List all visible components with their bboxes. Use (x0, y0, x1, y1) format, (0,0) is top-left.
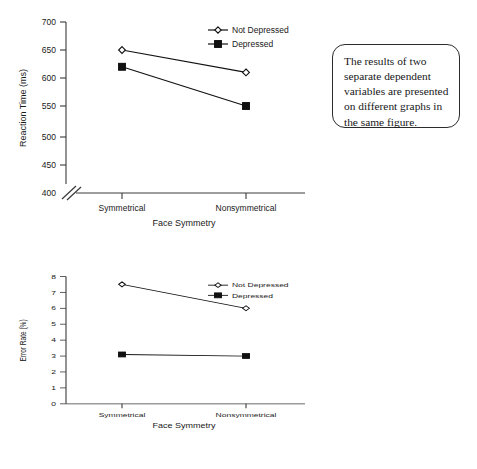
legend-item-depressed: Depressed (208, 39, 273, 49)
y-tick-label-0: 0 (51, 400, 56, 407)
data-point-marker-open-diamond (119, 47, 126, 54)
y-tick-label-2: 2 (51, 368, 56, 375)
y-tick-label-600: 600 (42, 73, 56, 83)
data-point-marker-filled-square (243, 103, 250, 110)
legend-label-depressed: Depressed (232, 39, 273, 49)
chart-reaction-time-svg: 700 650 600 550 500 450 400 Reaction Tim… (0, 0, 320, 236)
y-tick-label-5: 5 (51, 321, 56, 328)
legend-label-not-depressed: Not Depressed (232, 282, 289, 289)
y-axis-ticks (60, 276, 66, 403)
x-axis-title: Face Symmetry (153, 422, 216, 429)
y-tick-label-650: 650 (42, 45, 56, 55)
y-axis-ticks (60, 22, 66, 165)
x-axis-ticks (122, 404, 246, 408)
data-point-marker-open-diamond (119, 282, 126, 287)
x-tick-label-symmetrical: Symmetrical (99, 411, 146, 418)
x-tick-label-symmetrical: Symmetrical (99, 203, 146, 213)
legend-item-depressed: Depressed (208, 292, 273, 299)
legend-marker-open-diamond (215, 283, 221, 288)
series-depressed (119, 63, 250, 109)
figure-root: 700 650 600 550 500 450 400 Reaction Tim… (0, 0, 477, 469)
y-axis-title: Error Rate (%) (18, 319, 28, 361)
legend-marker-filled-square (215, 293, 222, 298)
chart-reaction-time: 700 650 600 550 500 450 400 Reaction Tim… (0, 0, 320, 236)
y-tick-label-4: 4 (51, 336, 56, 343)
y-tick-label-550: 550 (42, 101, 56, 111)
x-axis-title: Face Symmetry (152, 218, 216, 228)
y-tick-label-400: 400 (42, 188, 56, 198)
legend-marker-open-diamond (215, 27, 221, 33)
series-depressed (119, 352, 250, 359)
y-tick-label-1: 1 (51, 384, 56, 391)
legend: Not Depressed Depressed (208, 25, 289, 49)
legend-item-not-depressed: Not Depressed (208, 25, 289, 35)
legend-label-depressed: Depressed (232, 292, 273, 299)
chart-error-rate: 8 7 6 5 4 3 2 1 0 Error Rate (%) Symmetr… (0, 236, 320, 469)
data-point-marker-filled-square (119, 63, 126, 70)
data-point-marker-filled-square (243, 354, 250, 359)
y-tick-label-500: 500 (42, 132, 56, 142)
legend-label-not-depressed: Not Depressed (232, 25, 289, 35)
series-not-depressed (119, 282, 250, 311)
annotation-callout-text: The results of two separate dependent va… (344, 54, 450, 130)
data-point-marker-open-diamond (243, 69, 250, 76)
y-tick-label-6: 6 (51, 305, 56, 312)
x-axis-ticks (122, 193, 246, 199)
annotation-callout: The results of two separate dependent va… (332, 44, 460, 128)
x-tick-label-nonsymmetrical: Nonsymmetrical (216, 411, 277, 418)
data-point-marker-open-diamond (243, 306, 250, 311)
x-tick-label-nonsymmetrical: Nonsymmetrical (216, 203, 277, 213)
legend: Not Depressed Depressed (208, 282, 289, 300)
y-tick-label-450: 450 (42, 160, 56, 170)
y-tick-label-7: 7 (51, 289, 56, 296)
legend-item-not-depressed: Not Depressed (208, 282, 289, 289)
chart-error-rate-svg: 8 7 6 5 4 3 2 1 0 Error Rate (%) Symmetr… (0, 236, 320, 469)
y-tick-label-700: 700 (42, 17, 56, 27)
y-axis-title: Reaction Time (ms) (18, 69, 28, 147)
y-tick-label-3: 3 (51, 352, 56, 359)
y-tick-label-8: 8 (51, 273, 56, 280)
data-point-marker-filled-square (119, 352, 126, 357)
legend-marker-filled-square (215, 41, 222, 48)
